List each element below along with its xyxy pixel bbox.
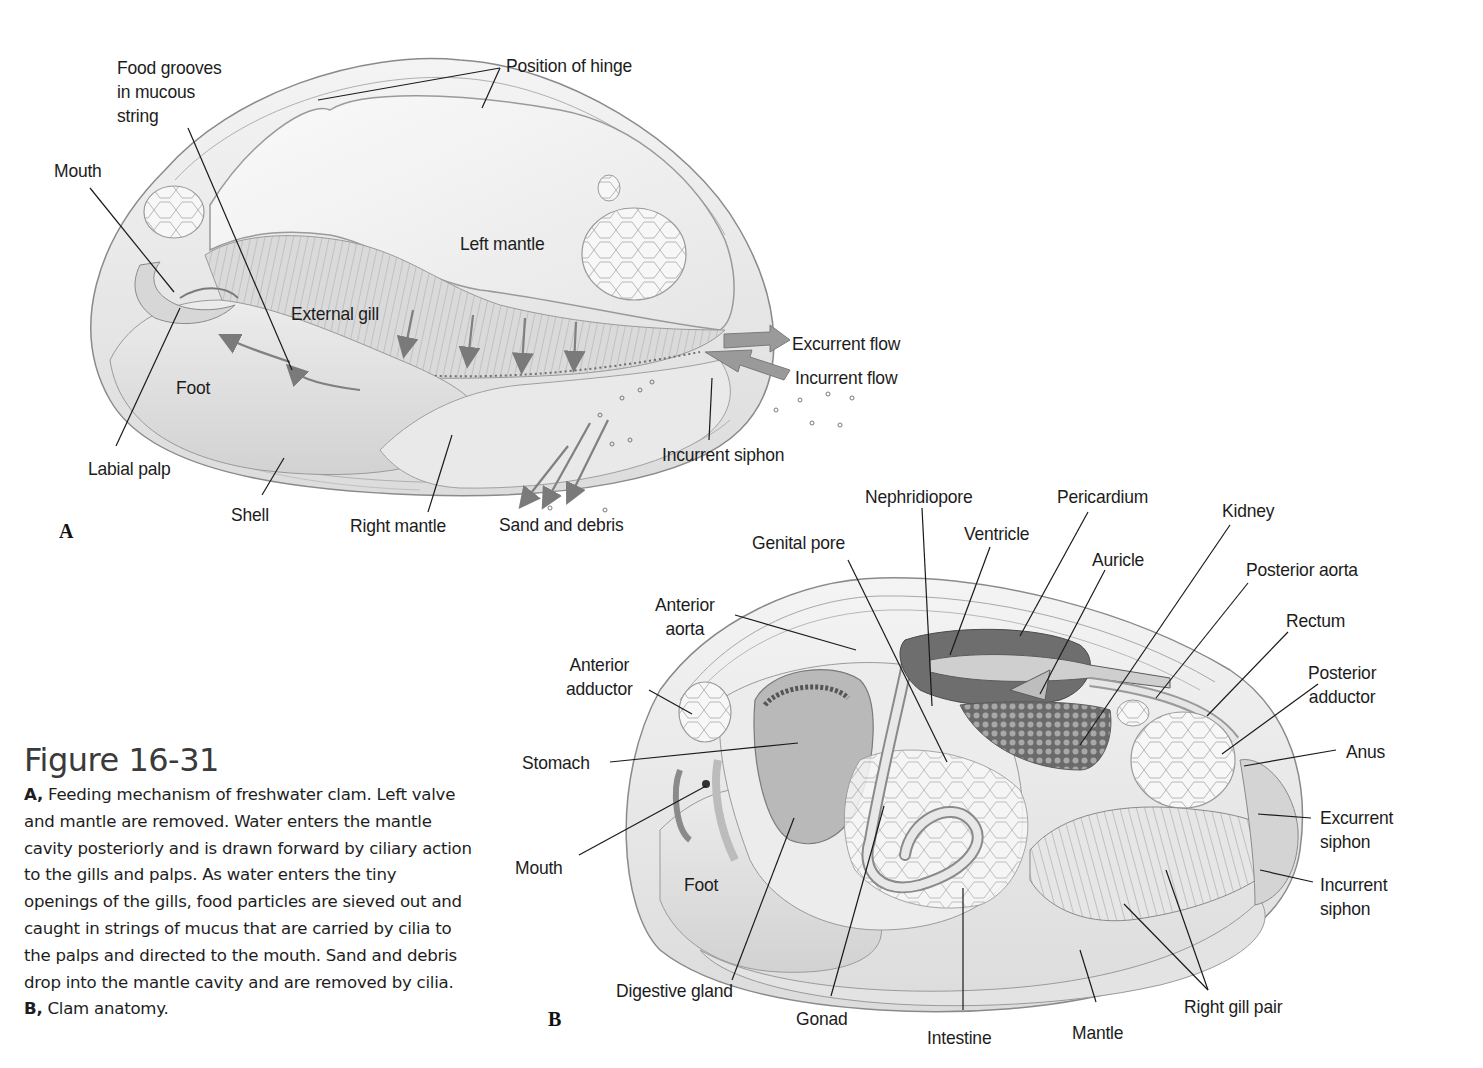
caption-b-text: Clam anatomy. [42,999,168,1018]
figure-caption-body: A, Feeding mechanism of freshwater clam.… [24,782,474,1023]
label-food-grooves: Food grooves in mucous string [117,56,222,128]
label-posterior-adductor: Posterior adductor [1308,661,1376,709]
panel-a-letter: A [59,520,73,543]
label-excurrent-flow: Excurrent flow [792,332,900,356]
label-left-mantle: Left mantle [460,232,544,256]
label-nephridiopore: Nephridiopore [865,485,972,509]
label-incurrent-siphon-a: Incurrent siphon [662,443,784,467]
caption-b-marker: B, [24,999,42,1018]
caption-a-marker: A, [24,785,43,804]
label-mantle: Mantle [1072,1021,1123,1045]
panel-b-illustration [579,508,1336,1012]
label-incurrent-siphon-b: Incurrent siphon [1320,873,1387,921]
label-incurrent-flow: Incurrent flow [795,366,897,390]
label-sand-and-debris: Sand and debris [499,513,624,537]
panel-b-letter: B [548,1008,561,1031]
label-shell: Shell [231,503,269,527]
label-gonad: Gonad [796,1007,848,1031]
label-right-gill-pair: Right gill pair [1184,995,1282,1019]
figure-16-31: Food grooves in mucous string Position o… [0,0,1483,1068]
label-mouth-b: Mouth [515,856,563,880]
figure-title: Figure 16-31 [24,740,474,780]
label-anterior-aorta: Anterior aorta [655,593,715,641]
label-digestive-gland: Digestive gland [616,979,733,1003]
label-foot-a: Foot [176,376,210,400]
label-anus: Anus [1346,740,1385,764]
label-excurrent-siphon: Excurrent siphon [1320,806,1393,854]
figure-caption: Figure 16-31 A, Feeding mechanism of fre… [24,740,474,1023]
label-rectum: Rectum [1286,609,1345,633]
label-stomach: Stomach [522,751,590,775]
label-anterior-adductor: Anterior adductor [566,653,633,701]
label-kidney: Kidney [1222,499,1274,523]
label-intestine: Intestine [927,1026,991,1050]
label-genital-pore: Genital pore [752,531,845,555]
label-auricle: Auricle [1092,548,1144,572]
label-position-of-hinge: Position of hinge [506,54,632,78]
caption-a-text: Feeding mechanism of freshwater clam. Le… [24,785,472,992]
label-external-gill: External gill [291,302,379,326]
label-posterior-aorta: Posterior aorta [1246,558,1358,582]
label-pericardium: Pericardium [1057,485,1148,509]
label-ventricle: Ventricle [964,522,1029,546]
label-mouth-a: Mouth [54,159,102,183]
label-foot-b: Foot [684,873,718,897]
label-right-mantle: Right mantle [350,514,446,538]
label-labial-palp: Labial palp [88,457,171,481]
